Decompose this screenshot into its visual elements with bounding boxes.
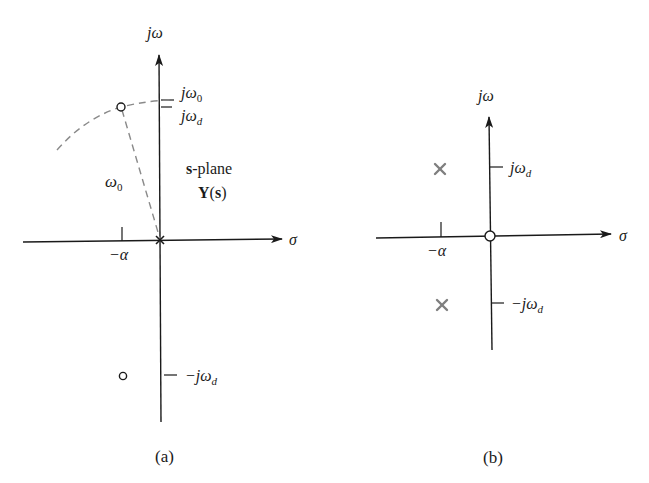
zero-marker-origin-b: [485, 231, 495, 241]
imag-axis-label-b: jω: [476, 87, 494, 105]
label-neg-jwd-b: −jωd: [511, 295, 544, 315]
function-label-Ys: Y(s): [198, 184, 226, 202]
pole-marker-lower-b: [437, 300, 447, 310]
panel-b: jω σ jωd −jωd −α (b): [376, 87, 628, 467]
panel-a: jω σ jω0 jωd −α −jωd ω0 s-plane Y(s: [23, 24, 298, 466]
caption-a: (a): [155, 447, 174, 466]
omega0-arc: [57, 100, 174, 150]
real-axis-label-b: σ: [619, 227, 628, 244]
label-neg-alpha-b: −α: [427, 242, 447, 259]
imag-axis-label-a: jω: [145, 24, 163, 42]
pole-zero-diagram: jω σ jω0 jωd −α −jωd ω0 s-plane Y(s: [0, 0, 649, 483]
pole-marker-upper-b: [435, 164, 445, 174]
real-axis-label-a: σ: [289, 231, 298, 248]
zero-marker-upper-a: [117, 103, 125, 111]
label-jwd-b: jωd: [508, 159, 532, 179]
omega0-radius-line: [122, 110, 160, 239]
s-plane-label: s-plane: [186, 160, 232, 178]
caption-b: (b): [483, 448, 503, 467]
label-neg-jwd-a: −jωd: [185, 367, 218, 387]
zero-marker-lower-a: [119, 372, 126, 379]
real-axis-a: [23, 239, 282, 242]
label-jwd-a: jωd: [179, 107, 203, 127]
label-neg-alpha-a: −α: [109, 246, 129, 263]
label-omega0-a: ω0: [105, 172, 123, 193]
label-jw0-a: jω0: [179, 84, 203, 104]
